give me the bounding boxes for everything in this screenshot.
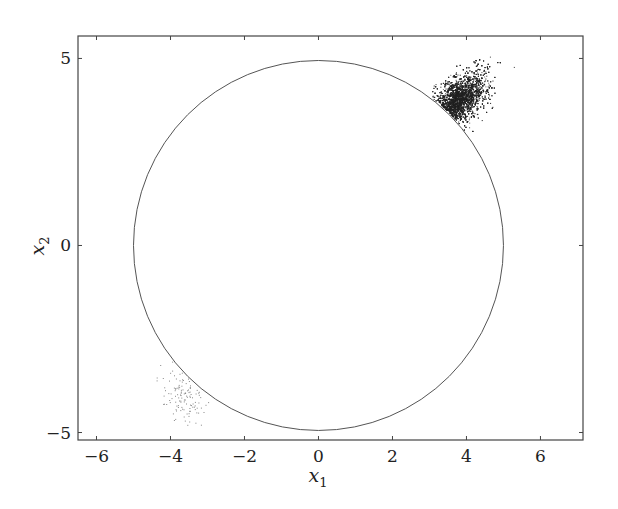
x-tick-label: −2: [232, 446, 257, 466]
x-tick-label: 6: [535, 446, 546, 466]
scatter-points: [157, 57, 515, 426]
constraint-circle: [133, 60, 503, 430]
x-tick-label: 0: [313, 446, 324, 466]
x-tick-label: 2: [387, 446, 398, 466]
y-tick-label: −5: [46, 423, 71, 443]
y-axis-label: x2: [26, 237, 52, 256]
y-tick-label: 0: [60, 235, 71, 255]
x-axis-label: x1: [309, 464, 328, 490]
y-tick-label: 5: [60, 48, 71, 68]
x-tick-label: −6: [84, 446, 109, 466]
y-axis-ticks: −505: [46, 48, 583, 442]
scatter-chart: −6−4−20246 −505 x1 x2: [0, 0, 618, 509]
plot-frame: [78, 36, 583, 440]
x-tick-label: 4: [461, 446, 472, 466]
x-tick-label: −4: [158, 446, 183, 466]
